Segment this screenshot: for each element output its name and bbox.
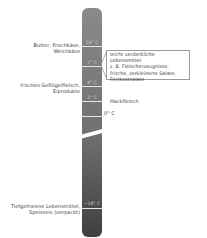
label-tiefgefroren: Tiefgefrorene Lebensmittel, Speiseeis (v… [11,203,80,215]
label-gefluegel: frisches Geflügelfleisch, Eiprodukte [20,82,80,94]
temp-10: 10° C [82,40,102,45]
label-hackfleisch: Hackfleisch [110,98,139,104]
tick-0 [82,116,106,117]
tick-4 [82,86,102,87]
label-butter: Butter, Frischkäse, Weichkäse [34,42,80,54]
tick-10 [82,46,102,47]
temp-2: 2° C [82,95,102,100]
temp-4: 4° C [82,80,102,85]
thermometer-lower [82,128,102,237]
label-zero: 0° C [104,110,115,116]
callout-box: leicht verderbliche Lebensmittel z. B. F… [106,50,190,80]
temp-7: 7° C [82,60,102,65]
temp-minus18: −18° C [82,201,102,206]
tick-2 [82,101,102,102]
scale-break-icon [80,126,106,140]
tick-minus18 [82,208,102,209]
tick-7 [82,66,102,67]
